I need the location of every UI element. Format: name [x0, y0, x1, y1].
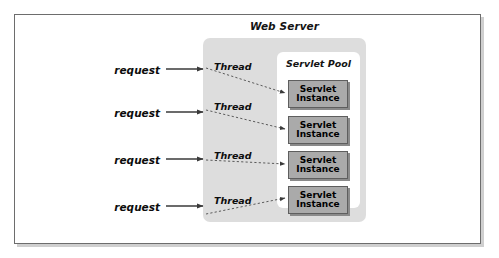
- request-label: request: [104, 154, 160, 166]
- servlet-pool-label: Servlet Pool: [277, 58, 360, 69]
- servlet-instance-line2: Instance: [296, 200, 339, 209]
- request-label: request: [104, 107, 160, 119]
- servlet-instance-line2: Instance: [296, 130, 339, 139]
- servlet-instance-line2: Instance: [296, 165, 339, 174]
- thread-label: Thread: [214, 101, 270, 112]
- servlet-instance-line2: Instance: [296, 94, 339, 103]
- figure-servlet-threading-diagram: Web Server Servlet Pool Servlet Instance…: [0, 0, 499, 258]
- servlet-instance-box: Servlet Instance: [288, 151, 348, 179]
- request-label: request: [104, 64, 160, 76]
- thread-label: Thread: [214, 195, 270, 206]
- servlet-instance-box: Servlet Instance: [288, 80, 348, 108]
- request-label: request: [104, 201, 160, 213]
- servlet-instance-box: Servlet Instance: [288, 186, 348, 214]
- thread-label: Thread: [214, 150, 270, 161]
- web-server-label: Web Server: [203, 20, 366, 32]
- servlet-instance-box: Servlet Instance: [288, 116, 348, 144]
- thread-label: Thread: [214, 61, 270, 72]
